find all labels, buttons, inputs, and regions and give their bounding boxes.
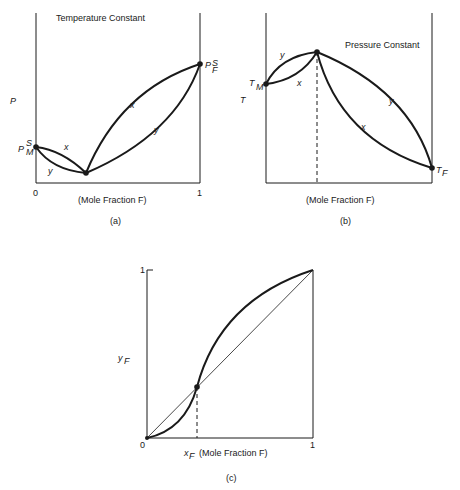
panel-b-title: Pressure Constant bbox=[345, 40, 420, 50]
panel-c-xvar-sub: F bbox=[189, 451, 195, 461]
panel-c-ylabel: y bbox=[117, 353, 123, 363]
panel-c-tick-0: 0 bbox=[140, 440, 145, 450]
panel-c-tick-1x: 1 bbox=[310, 440, 315, 450]
panel-b-caption: (b) bbox=[340, 216, 351, 226]
panel-c bbox=[145, 270, 313, 440]
label-pm-sub: M bbox=[26, 147, 34, 157]
panel-c-caption: (c) bbox=[226, 473, 237, 483]
label-b-x1: x bbox=[296, 78, 302, 88]
label-a-x1: x bbox=[63, 142, 69, 152]
label-tm-sub: M bbox=[256, 82, 264, 92]
panel-c-tick-1y: 1 bbox=[140, 265, 145, 275]
panel-c-xlabel: (Mole Fraction F) bbox=[199, 448, 268, 458]
panel-b bbox=[263, 13, 435, 183]
panel-a bbox=[33, 13, 203, 183]
panel-b-ylabel: T bbox=[240, 95, 247, 105]
label-a-y1: y bbox=[47, 166, 53, 176]
label-tm: T bbox=[249, 78, 256, 88]
label-a-x2: x bbox=[129, 100, 135, 110]
panel-a-tick-0: 0 bbox=[33, 188, 38, 198]
phase-diagrams: Temperature Constant P 0 1 (Mole Fractio… bbox=[0, 0, 460, 490]
label-b-y1: y bbox=[279, 50, 285, 60]
panel-a-caption: (a) bbox=[110, 216, 121, 226]
label-pf: P bbox=[205, 60, 211, 70]
panel-a-ylabel: P bbox=[10, 96, 16, 106]
panel-a-tick-1: 1 bbox=[197, 188, 202, 198]
label-tf-sub: F bbox=[442, 168, 448, 178]
label-pf-sub: F bbox=[212, 65, 218, 75]
label-a-y2: y bbox=[153, 125, 159, 135]
panel-a-title: Temperature Constant bbox=[56, 13, 146, 23]
label-b-y2: y bbox=[388, 96, 394, 106]
label-b-x2: x bbox=[360, 122, 366, 132]
panel-a-xlabel: (Mole Fraction F) bbox=[78, 195, 147, 205]
panel-c-ylabel-sub: F bbox=[124, 356, 130, 366]
panel-b-xlabel: (Mole Fraction F) bbox=[306, 195, 375, 205]
label-pm: P bbox=[18, 144, 24, 154]
